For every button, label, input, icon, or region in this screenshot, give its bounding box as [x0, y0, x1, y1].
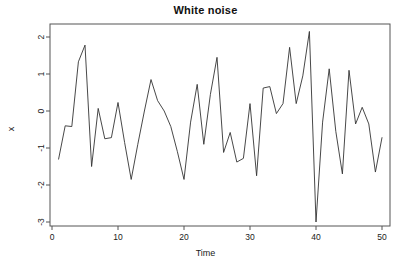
y-tick-label: -2 — [36, 181, 46, 189]
x-tick-label: 50 — [377, 232, 387, 242]
x-axis-label: Time — [0, 248, 411, 258]
y-axis-ticks: 210-1-2-3 — [36, 34, 50, 225]
y-tick-label: 2 — [36, 34, 46, 39]
x-tick-label: 40 — [311, 232, 321, 242]
x-tick-label: 20 — [179, 232, 189, 242]
x-tick-label: 0 — [50, 232, 55, 242]
data-series-group — [59, 31, 382, 222]
x-axis-ticks: 01020304050 — [50, 226, 387, 242]
y-tick-label: 1 — [36, 71, 46, 76]
series-line-x — [59, 31, 382, 222]
x-tick-label: 10 — [113, 232, 123, 242]
x-tick-label: 30 — [245, 232, 255, 242]
y-tick-label: -1 — [36, 144, 46, 152]
chart-container: White noise 210-1-2-3 01020304050 Time x — [0, 0, 411, 272]
y-axis-label: x — [6, 122, 16, 136]
line-chart-svg: 210-1-2-3 01020304050 — [0, 0, 411, 272]
y-tick-label: 0 — [36, 108, 46, 113]
plot-frame — [50, 24, 390, 226]
y-tick-label: -3 — [36, 218, 46, 226]
